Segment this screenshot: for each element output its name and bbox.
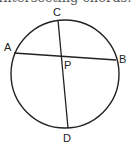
circle: [11, 20, 119, 128]
label-c: C: [53, 6, 61, 18]
chord-cd: [58, 20, 68, 128]
label-p: P: [64, 59, 71, 71]
intersecting-chords-diagram: A B C D P: [0, 0, 133, 151]
label-a: A: [4, 41, 12, 53]
label-b: B: [119, 53, 126, 65]
label-d: D: [63, 132, 71, 144]
